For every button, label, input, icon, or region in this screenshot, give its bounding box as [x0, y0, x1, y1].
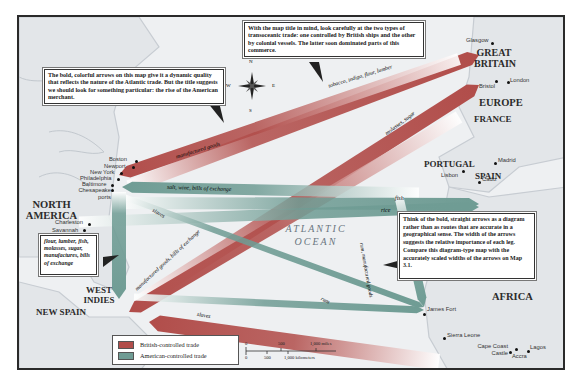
scale-km-500: 500 — [264, 355, 271, 360]
callout-top: With the map title in mind, look careful… — [244, 22, 424, 57]
scale-km-1000: 1,000 kilometers — [284, 355, 315, 360]
scale-mi-0: 0 — [245, 341, 247, 346]
pointer-top — [309, 62, 323, 82]
pointer-left — [207, 102, 224, 123]
legend-swatch-american — [118, 352, 134, 360]
legend: British-controlled trade American-contro… — [112, 335, 239, 365]
scale-bar: 0 500 1,000 miles 0 500 1,000 kilometers — [244, 341, 344, 361]
legend-label-british: British-controlled trade — [140, 341, 199, 348]
scale-mi-500: 500 — [278, 341, 285, 346]
scale-km-0: 0 — [245, 355, 247, 360]
legend-label-american: American-controlled trade — [140, 352, 207, 359]
callout-right: Think of the bold, straight arrows as a … — [399, 213, 535, 279]
callout-goods: flour, lumber, fish, molasses, sugar, ma… — [40, 235, 97, 275]
atlantic-trade-map: tobacco, indigo, flour, lumber manufactu… — [17, 15, 565, 370]
legend-swatch-british — [118, 341, 134, 349]
pointer-goods — [103, 255, 119, 267]
scale-mi-1000: 1,000 miles — [310, 341, 331, 346]
legend-item-british: British-controlled trade — [118, 339, 233, 350]
callout-left: The bold, colorful arrows on this map gi… — [44, 69, 224, 104]
legend-item-american: American-controlled trade — [118, 350, 233, 361]
